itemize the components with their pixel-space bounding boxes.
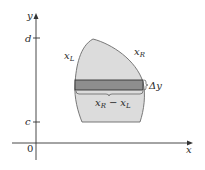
delta-y-label: Δy xyxy=(148,80,162,91)
c-label: c xyxy=(25,116,31,127)
y-axis-arrow-icon xyxy=(34,13,39,19)
region-diagram: y d c 0 x xL xR Δy xR−xL xyxy=(0,0,205,170)
x-axis-label: x xyxy=(186,144,192,155)
y-axis-label: y xyxy=(26,10,33,21)
origin-label: 0 xyxy=(27,143,33,154)
d-label: d xyxy=(25,33,31,44)
x-left-label: xL xyxy=(64,50,75,63)
horizontal-strip xyxy=(75,80,143,90)
x-right-label: xR xyxy=(134,46,146,59)
height-brace-icon xyxy=(144,80,148,90)
